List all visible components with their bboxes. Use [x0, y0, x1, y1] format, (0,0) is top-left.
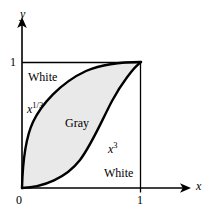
curve-label-cube-exponent: 3 [113, 140, 117, 150]
curve-label-cube-root: x1/3 [27, 101, 43, 115]
figure-canvas: y x 1 0 1 White Gray White x1/3 x3 [0, 0, 211, 220]
region-label-white-lower-right: White [104, 167, 133, 179]
region-label-white-upper-left: White [28, 71, 57, 83]
x-tick-label-zero: 0 [16, 194, 22, 206]
x-axis-label: x [196, 180, 201, 192]
region-label-gray: Gray [65, 117, 89, 129]
curve-label-cube-root-exponent: 1/3 [32, 100, 43, 110]
y-tick-label-one: 1 [10, 56, 16, 68]
curve-label-cube: x3 [108, 141, 118, 155]
x-tick-label-one: 1 [137, 194, 143, 206]
y-axis-label: y [20, 8, 25, 20]
